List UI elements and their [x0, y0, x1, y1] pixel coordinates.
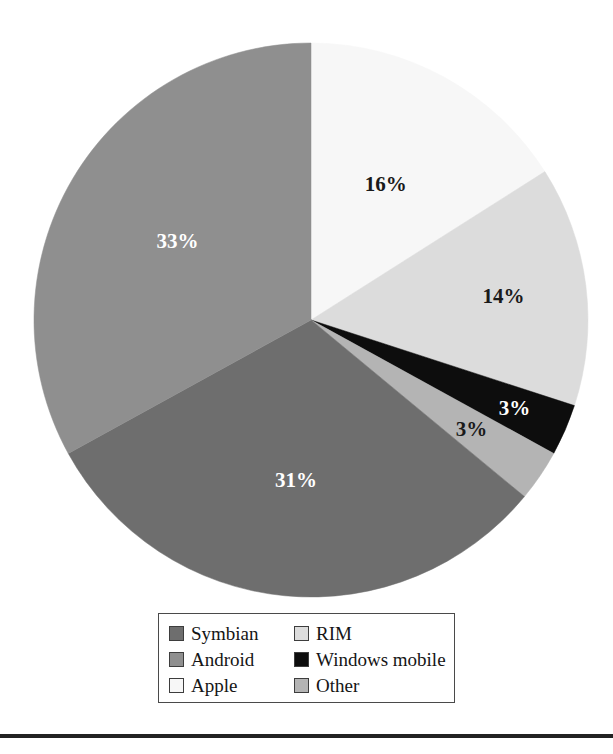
legend-label-android: Android: [191, 650, 254, 669]
legend-grid: SymbianRIMAndroidWindows mobileAppleOthe…: [169, 620, 446, 698]
legend-swatch-symbian-icon: [169, 626, 184, 641]
pie-chart-figure: 16%14%3%3%31%33% SymbianRIMAndroidWindow…: [0, 0, 613, 754]
legend-item-apple[interactable]: Apple: [169, 676, 294, 695]
pie-slice-label-other: 3%: [456, 417, 488, 441]
pie-slice-label-rim: 14%: [482, 284, 524, 308]
legend-label-apple: Apple: [191, 676, 237, 695]
legend-item-windows-mobile[interactable]: Windows mobile: [294, 650, 446, 669]
pie-slice-group: [34, 43, 588, 597]
legend-swatch-android-icon: [169, 652, 184, 667]
legend-label-symbian: Symbian: [191, 624, 259, 643]
pie-chart-plot-area: 16%14%3%3%31%33%: [0, 0, 613, 610]
pie-chart-svg: 16%14%3%3%31%33%: [0, 0, 613, 610]
pie-slice-label-android: 33%: [157, 229, 199, 253]
legend-item-android[interactable]: Android: [169, 650, 294, 669]
legend-swatch-rim-icon: [294, 626, 309, 641]
legend-swatch-windows-mobile-icon: [294, 652, 309, 667]
legend-label-windows-mobile: Windows mobile: [316, 650, 446, 669]
chart-legend: SymbianRIMAndroidWindows mobileAppleOthe…: [158, 613, 455, 703]
pie-slice-label-windows-mobile: 3%: [499, 396, 531, 420]
legend-item-symbian[interactable]: Symbian: [169, 624, 294, 643]
pie-slice-label-apple: 16%: [365, 172, 407, 196]
legend-item-other[interactable]: Other: [294, 676, 446, 695]
legend-swatch-apple-icon: [169, 678, 184, 693]
legend-swatch-other-icon: [294, 678, 309, 693]
legend-item-rim[interactable]: RIM: [294, 624, 446, 643]
bottom-horizontal-rule: [0, 734, 613, 738]
legend-label-other: Other: [316, 676, 359, 695]
legend-label-rim: RIM: [316, 624, 352, 643]
pie-slice-label-symbian: 31%: [275, 468, 317, 492]
